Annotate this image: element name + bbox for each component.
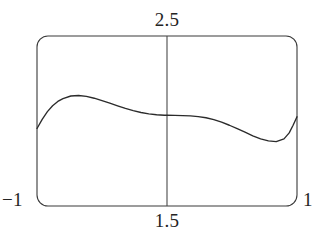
figure-root: 2.5 1.5 −1 1 — [0, 0, 316, 237]
axis-label-bottom: 1.5 — [155, 211, 180, 230]
plot-area — [0, 0, 316, 237]
axis-label-left: −1 — [2, 190, 23, 209]
axis-label-right: 1 — [303, 190, 313, 209]
axis-label-top: 2.5 — [155, 10, 180, 29]
